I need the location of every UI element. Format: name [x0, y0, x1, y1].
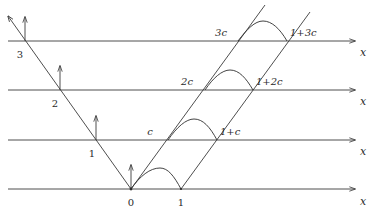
pulse-hump-2 — [205, 70, 253, 90]
axis-label-x-1: x — [360, 145, 367, 158]
label-time-3: 3 — [17, 49, 23, 60]
diagram-canvas: 3 2 1 0 1 c 2c 3c 1+c 1+2c 1+3c x x x x — [0, 0, 372, 220]
axis-label-x-2: x — [360, 95, 367, 108]
unit-point — [180, 188, 182, 190]
pulse-hump-3 — [238, 21, 287, 41]
label-zero: 0 — [128, 197, 134, 208]
label-3c: 3c — [215, 27, 227, 38]
label-1-plus-2c: 1+2c — [256, 76, 283, 87]
label-time-1: 1 — [89, 148, 95, 159]
label-time-2: 2 — [52, 98, 58, 109]
axis-label-x-0: x — [360, 195, 367, 208]
label-one: 1 — [178, 197, 184, 208]
label-1-plus-c: 1+c — [220, 126, 241, 137]
label-2c: 2c — [180, 76, 193, 87]
characteristics-diagram: 3 2 1 0 1 c 2c 3c 1+c 1+2c 1+3c x x x x — [0, 0, 372, 220]
axis-label-x-3: x — [360, 46, 367, 59]
left-characteristic-line — [8, 16, 131, 189]
pulse-hump-1 — [168, 119, 217, 140]
characteristic-line-1-plus-c — [181, 12, 310, 189]
origin-point — [130, 188, 133, 191]
label-c: c — [147, 126, 153, 137]
label-1-plus-3c: 1+3c — [290, 27, 317, 38]
